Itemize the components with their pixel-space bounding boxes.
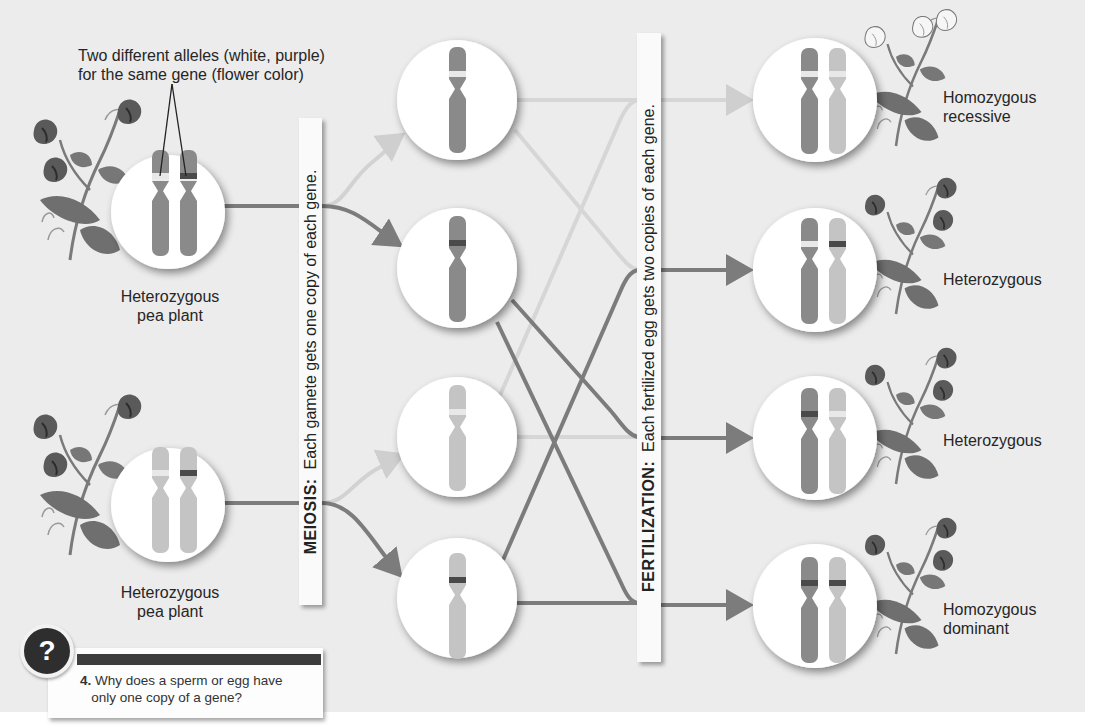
meiosis-text: Each gamete gets one copy of each gene.: [302, 169, 319, 469]
offspring-4-label-line-2: dominant: [943, 619, 1036, 638]
meiosis-label: MEIOSIS: Each gamete gets one copy of ea…: [302, 169, 320, 554]
fertilization-text: Each fertilized egg gets two copies of e…: [640, 104, 657, 452]
offspring-4-cell: [753, 544, 877, 668]
question-box: 4. Why does a sperm or egg have only one…: [48, 648, 323, 718]
offspring-3-label: Heterozygous: [943, 431, 1042, 450]
question-text: 4. Why does a sperm or egg have only one…: [80, 672, 283, 706]
question-number: 4.: [80, 673, 91, 688]
question-line-2: only one copy of a gene?: [91, 690, 242, 705]
parent-2-label-line-1: Heterozygous: [100, 583, 240, 602]
offspring-1-label-line-1: Homozygous: [943, 88, 1036, 107]
meiosis-title: MEIOSIS:: [302, 478, 319, 554]
parent-2-label: Heterozygous pea plant: [100, 583, 240, 621]
offspring-1-label-line-2: recessive: [943, 107, 1036, 126]
allele-annotation: Two different alleles (white, purple) fo…: [78, 46, 325, 84]
offspring-plant-3: [865, 348, 957, 484]
gamete-1: [397, 40, 517, 160]
fertilization-label: FERTILIZATION: Each fertilized egg gets …: [640, 104, 658, 592]
offspring-plant-2: [865, 178, 957, 314]
offspring-4-label: Homozygous dominant: [943, 600, 1036, 638]
gamete-2: [397, 208, 517, 328]
parent-2: [33, 395, 225, 562]
question-header-bar: [77, 654, 321, 665]
gamete-4: [397, 538, 517, 659]
offspring-2-label: Heterozygous: [943, 270, 1042, 289]
offspring-1-label: Homozygous recessive: [943, 88, 1036, 126]
parent-1-label-line-2: pea plant: [100, 306, 240, 325]
offspring-2-label-line-1: Heterozygous: [943, 270, 1042, 289]
fertilization-title: FERTILIZATION:: [640, 460, 657, 591]
meiosis-label-bar: MEIOSIS: Each gamete gets one copy of ea…: [299, 118, 322, 605]
question-line-1: Why does a sperm or egg have: [95, 673, 283, 688]
offspring-3-cell: [753, 376, 877, 500]
parent-1: [33, 84, 225, 269]
offspring-2-cell: [753, 208, 877, 332]
fertilization-connectors: [497, 100, 638, 603]
fertilization-label-bar: FERTILIZATION: Each fertilized egg gets …: [637, 33, 661, 662]
offspring-4-label-line-1: Homozygous: [943, 600, 1036, 619]
parent-2-label-line-2: pea plant: [100, 602, 240, 621]
parent-1-label: Heterozygous pea plant: [100, 287, 240, 325]
gamete-3: [397, 377, 517, 497]
offspring-arrows: [661, 100, 750, 605]
parent-1-label-line-1: Heterozygous: [100, 287, 240, 306]
annotation-line-1: Two different alleles (white, purple): [78, 46, 325, 65]
offspring-1-cell: [753, 38, 877, 162]
offspring-3-label-line-1: Heterozygous: [943, 431, 1042, 450]
annotation-line-2: for the same gene (flower color): [78, 65, 325, 84]
question-mark-icon: ?: [20, 624, 74, 678]
